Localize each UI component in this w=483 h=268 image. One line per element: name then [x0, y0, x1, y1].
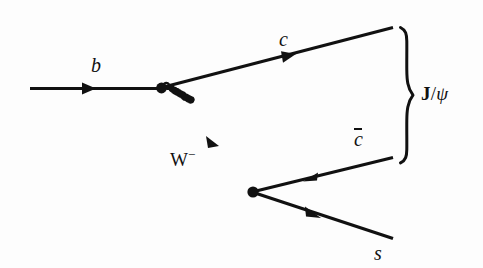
vertex-1-dot — [156, 83, 167, 94]
feynman-diagram-canvas — [0, 0, 483, 268]
w-boson-arrowhead — [206, 136, 219, 148]
jpsi-psi-symbol: ψ — [436, 83, 448, 104]
c-quark-label: c — [279, 29, 288, 49]
cbar-quark-label: c — [354, 127, 363, 149]
w-boson-symbol: W — [170, 149, 188, 170]
jpsi-label: J/ψ — [421, 84, 448, 103]
cbar-quark-symbol: c — [354, 127, 363, 149]
w-boson-label: W− — [170, 148, 195, 169]
jpsi-brace — [401, 28, 414, 163]
cbar-quark-line — [252, 158, 393, 193]
w-boson-charge-superscript: − — [188, 147, 195, 162]
s-quark-line — [252, 192, 393, 239]
c-quark-line — [160, 28, 393, 89]
b-quark-arrowhead — [82, 83, 96, 95]
vertex-2-dot — [247, 186, 258, 197]
feynman-diagram-figure: b c W− c s J/ψ — [0, 0, 483, 268]
s-quark-arrowhead — [305, 207, 321, 219]
b-quark-label: b — [91, 55, 101, 75]
jpsi-j-symbol: J — [421, 83, 431, 104]
s-quark-label: s — [374, 243, 382, 263]
